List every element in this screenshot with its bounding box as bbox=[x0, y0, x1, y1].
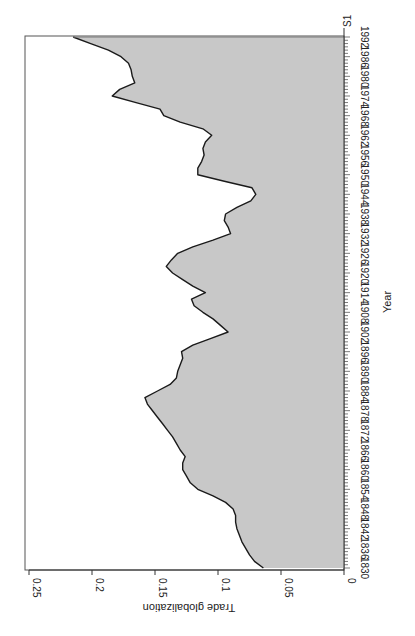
year-tick-label: 1914 bbox=[359, 282, 370, 305]
year-tick-label: 1866 bbox=[359, 439, 370, 462]
year-tick-label: 1830 bbox=[359, 557, 370, 580]
value-tick-label: 0.15 bbox=[157, 578, 168, 598]
year-tick-label: 1908 bbox=[359, 301, 370, 324]
series-label: S1 bbox=[342, 14, 353, 27]
year-tick-label: 1920 bbox=[359, 262, 370, 285]
year-tick-label: 1926 bbox=[359, 242, 370, 265]
year-tick-label: 1848 bbox=[359, 498, 370, 521]
value-tick-label: 0 bbox=[346, 578, 357, 584]
year-tick-label: 1956 bbox=[359, 144, 370, 167]
year-tick-label: 1974 bbox=[359, 85, 370, 108]
plot-area bbox=[25, 36, 344, 570]
year-tick-label: 1890 bbox=[359, 360, 370, 383]
year-tick-label: 1884 bbox=[359, 380, 370, 403]
value-tick-label: 0.2 bbox=[94, 578, 105, 592]
value-tick-label: 0.1 bbox=[220, 578, 231, 592]
year-tick-label: 1962 bbox=[359, 124, 370, 147]
year-tick-label: 1968 bbox=[359, 105, 370, 128]
year-tick-label: 1980 bbox=[359, 65, 370, 88]
value-tick-label: 0.25 bbox=[31, 578, 42, 598]
year-tick-label: 1944 bbox=[359, 183, 370, 206]
trade-globalization-chart: 1830183618421848185418601866187218781884… bbox=[0, 0, 415, 636]
year-axis: 1830183618421848185418601866187218781884… bbox=[344, 26, 370, 580]
value-axis: 00.050.10.150.20.25 bbox=[29, 570, 357, 598]
year-tick-label: 1938 bbox=[359, 203, 370, 226]
year-tick-label: 1854 bbox=[359, 478, 370, 501]
year-tick-label: 1842 bbox=[359, 518, 370, 541]
year-tick-label: 1860 bbox=[359, 459, 370, 482]
year-tick-label: 1902 bbox=[359, 321, 370, 344]
year-tick-label: 1932 bbox=[359, 223, 370, 246]
year-tick-label: 1896 bbox=[359, 341, 370, 364]
year-tick-label: 1878 bbox=[359, 400, 370, 423]
x-axis-title: Year bbox=[381, 291, 393, 314]
year-tick-label: 1986 bbox=[359, 46, 370, 69]
year-tick-label: 1872 bbox=[359, 419, 370, 442]
y-axis-title: Trade globalization bbox=[143, 602, 236, 614]
year-tick-label: 1836 bbox=[359, 537, 370, 560]
value-tick-label: 0.05 bbox=[283, 578, 294, 598]
year-tick-label: 1992 bbox=[359, 26, 370, 49]
year-tick-label: 1950 bbox=[359, 164, 370, 187]
